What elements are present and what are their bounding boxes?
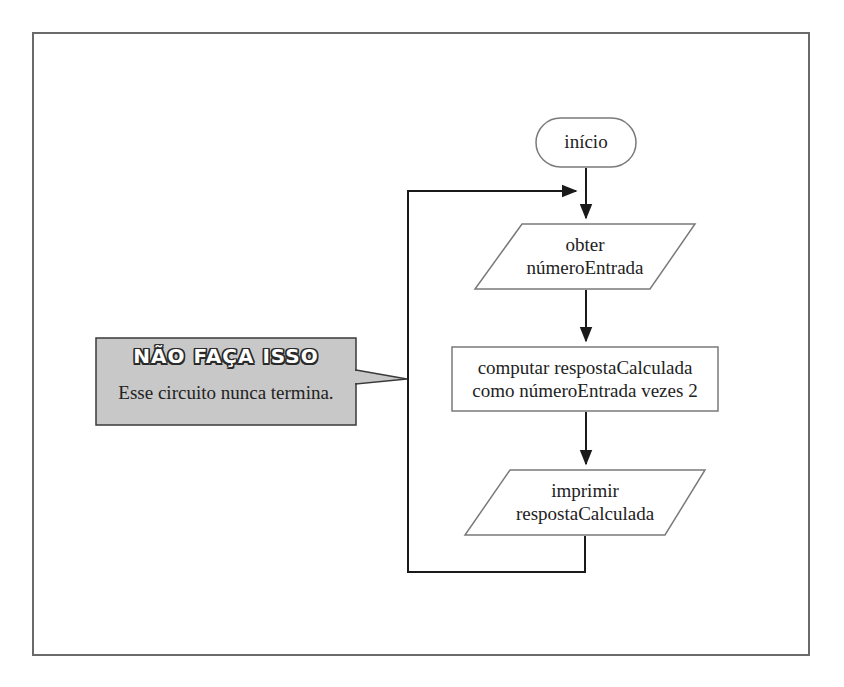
input-label-line2: númeroEntrada: [475, 256, 695, 279]
output-label-line2: respostaCalculada: [470, 502, 700, 525]
callout-text: Esse circuito nunca termina.: [97, 382, 355, 404]
start-label: início: [536, 130, 636, 153]
process-label: computar respostaCalculada como númeroEn…: [452, 356, 718, 402]
process-label-line2: como númeroEntrada vezes 2: [452, 379, 718, 402]
output-label-line1: imprimir: [470, 479, 700, 502]
input-label-line1: obter: [475, 233, 695, 256]
output-label: imprimir respostaCalculada: [470, 479, 700, 525]
input-label: obter númeroEntrada: [475, 233, 695, 279]
callout-title: NÃO FAÇA ISSO: [97, 344, 355, 368]
callout-pointer: [356, 370, 407, 384]
process-label-line1: computar respostaCalculada: [452, 356, 718, 379]
